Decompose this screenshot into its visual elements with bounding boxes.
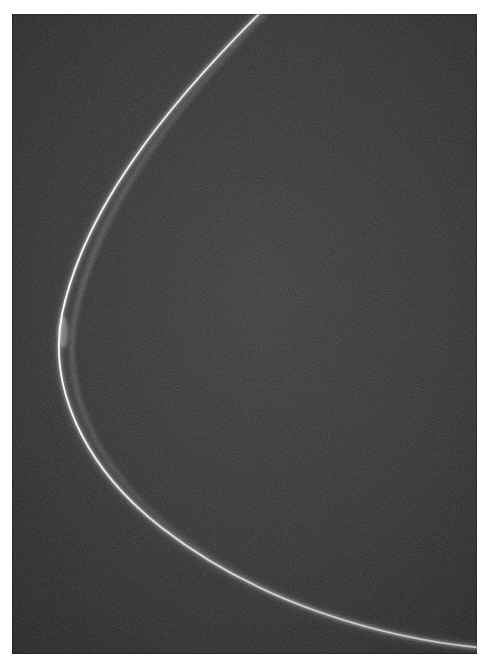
plate-image [12,14,477,654]
film-grain-overlay [12,14,477,654]
page-root [0,0,489,670]
photographic-plate [12,14,477,654]
